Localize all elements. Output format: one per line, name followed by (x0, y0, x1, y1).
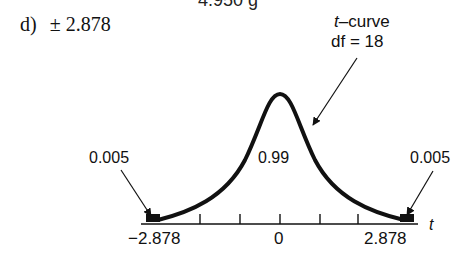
right-tail-arrow (407, 171, 433, 215)
tick-label-zero: 0 (274, 229, 283, 249)
axis-variable-label: t (429, 216, 433, 234)
tick-label-left: −2.878 (128, 229, 180, 249)
curve-title: t–curve (334, 12, 390, 32)
right-tail-shade (400, 214, 414, 222)
axis-ticks (200, 214, 358, 224)
left-tail-area: 0.005 (89, 149, 129, 167)
tick-label-right: 2.878 (364, 229, 407, 249)
left-tail-arrow (121, 170, 151, 216)
t-curve-plot (0, 0, 475, 266)
right-tail-area: 0.005 (410, 149, 450, 167)
center-area: 0.99 (258, 149, 289, 167)
degrees-of-freedom: df = 18 (331, 32, 383, 52)
curve-title-rest: –curve (339, 12, 390, 31)
left-tail-shade (146, 214, 160, 222)
curve-label-arrow (313, 58, 357, 125)
